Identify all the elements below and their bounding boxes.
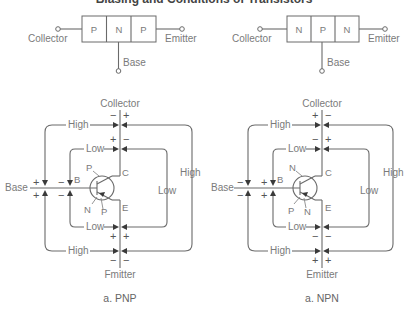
polarity-sign: + <box>110 230 116 242</box>
polarity-sign: + <box>123 230 129 242</box>
pin-e-label: E <box>325 202 331 213</box>
polarity-sign: − <box>58 176 64 188</box>
region-label: P <box>91 24 97 35</box>
figure-title: Biasing and Conditions of Transistors <box>96 0 313 6</box>
pin-b-label: B <box>74 174 80 185</box>
polarity-sign: − <box>110 254 116 266</box>
polarity-sign: − <box>58 189 64 201</box>
emitter-terminal-icon <box>180 27 185 32</box>
emitter-label: Emitter <box>306 269 338 280</box>
polarity-sign: + <box>123 109 129 121</box>
base-label: Base <box>211 182 234 193</box>
region-label: N <box>116 24 123 35</box>
base-label: Base <box>327 57 350 68</box>
pnp-schematic: P N P Collector Emitter Base <box>28 16 197 73</box>
emitter-label: Emitter <box>165 33 197 44</box>
collector-label: Collector <box>100 98 140 109</box>
pin-b-label: B <box>277 174 283 185</box>
low-label: Low <box>288 221 307 232</box>
region-label: P <box>320 24 326 35</box>
high-label: High <box>68 245 89 256</box>
junction-label: N <box>304 206 311 217</box>
polarity-sign: − <box>312 230 318 242</box>
polarity-sign: + <box>312 254 318 266</box>
emitter-terminal-icon <box>383 27 388 32</box>
polarity-sign: + <box>110 133 116 145</box>
polarity-sign: + <box>261 189 267 201</box>
junction-label: P <box>86 162 92 173</box>
polarity-sign: + <box>33 189 39 201</box>
low-label: Low <box>360 185 379 196</box>
polarity-sign: + <box>261 176 267 188</box>
polarity-sign: − <box>237 176 243 188</box>
transistor-bias-diagram: Biasing and Conditions of Transistors P … <box>0 0 408 313</box>
high-label: High <box>383 167 404 178</box>
junction-label: N <box>289 162 296 173</box>
junction-label: P <box>288 205 294 216</box>
emitter-label: Emitter <box>368 33 400 44</box>
pin-c-label: C <box>122 167 129 178</box>
polarity-sign: − <box>110 109 116 121</box>
collector-label: Collector <box>302 98 342 109</box>
collector-terminal-icon <box>56 27 61 32</box>
pnp-bias-circuit: Collector Base B C E P N P High High Hi <box>5 98 201 304</box>
collector-terminal-icon <box>258 27 263 32</box>
polarity-sign: + <box>325 133 331 145</box>
region-label: N <box>344 24 351 35</box>
collector-label: Collector <box>232 33 272 44</box>
low-label: Low <box>86 221 105 232</box>
high-label: High <box>68 119 89 130</box>
caption: a. NPN <box>305 292 339 304</box>
base-label: Base <box>123 57 146 68</box>
polarity-sign: + <box>312 109 318 121</box>
junction-label: P <box>101 206 107 217</box>
region-label: P <box>140 24 146 35</box>
polarity-sign: − <box>237 189 243 201</box>
region-label: N <box>296 24 303 35</box>
pin-c-label: C <box>325 167 332 178</box>
polarity-sign: − <box>312 133 318 145</box>
caption: a. PNP <box>103 292 136 304</box>
high-label: High <box>270 245 291 256</box>
pin-e-label: E <box>122 202 128 213</box>
polarity-sign: + <box>325 254 331 266</box>
polarity-sign: − <box>123 133 129 145</box>
base-label: Base <box>5 182 28 193</box>
junction-label: N <box>84 204 91 215</box>
collector-label: Collector <box>28 33 68 44</box>
base-terminal-icon <box>320 69 325 74</box>
polarity-sign: − <box>123 254 129 266</box>
low-label: Low <box>158 185 177 196</box>
high-label: High <box>180 167 201 178</box>
npn-schematic: N P N Collector Emitter Base <box>232 16 400 73</box>
base-terminal-icon <box>116 69 121 74</box>
npn-bias-circuit: Collector Base B C E N P N High High Hig… <box>211 98 404 304</box>
high-label: High <box>270 119 291 130</box>
polarity-sign: − <box>325 230 331 242</box>
low-label: Low <box>288 143 307 154</box>
emitter-label: Fmitter <box>104 269 136 280</box>
polarity-sign: − <box>325 109 331 121</box>
polarity-sign: + <box>33 176 39 188</box>
low-label: Low <box>86 143 105 154</box>
